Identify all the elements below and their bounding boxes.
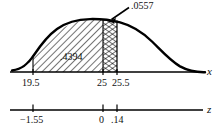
normal-distribution-figure: .0557 .4394 x z 19.5 25 25.5 −1.55 0 .14 — [0, 0, 219, 138]
z-axis-label: z — [207, 104, 211, 115]
x-tick-label-19-5: 19.5 — [22, 78, 40, 88]
z-tick-label-0: 0 — [99, 115, 104, 125]
callout-value-label: .0557 — [131, 1, 154, 11]
callout-arrow — [109, 8, 130, 24]
x-tick-label-25: 25 — [97, 78, 107, 88]
z-tick-label-neg-1-55: −1.55 — [20, 115, 43, 125]
diagonal-region-area-label: .4394 — [60, 52, 83, 62]
x-axis-label: x — [207, 66, 212, 77]
x-tick-label-25-5: 25.5 — [112, 78, 130, 88]
z-tick-label-0-14: .14 — [111, 115, 124, 125]
